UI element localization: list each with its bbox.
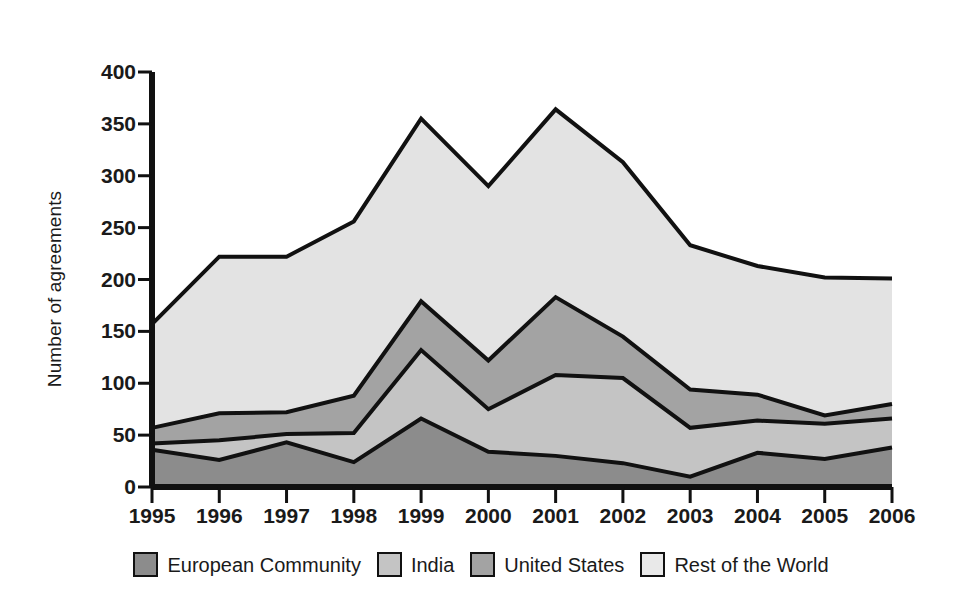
- legend-label: European Community: [167, 555, 360, 575]
- legend-swatch-icon: [133, 552, 158, 577]
- legend-label: United States: [504, 555, 624, 575]
- legend-entry[interactable]: India: [377, 552, 454, 577]
- stacked-area-chart-figure: Number of agreements 0501001502002503003…: [0, 0, 962, 601]
- legend-entry[interactable]: United States: [470, 552, 624, 577]
- legend-swatch-icon: [470, 552, 495, 577]
- legend-label: Rest of the World: [674, 555, 828, 575]
- chart-legend: European CommunityIndiaUnited StatesRest…: [0, 552, 962, 577]
- legend-label: India: [411, 555, 454, 575]
- legend-entry[interactable]: Rest of the World: [640, 552, 828, 577]
- legend-swatch-icon: [640, 552, 665, 577]
- legend-swatch-icon: [377, 552, 402, 577]
- legend-entry[interactable]: European Community: [133, 552, 360, 577]
- x-axis-tick-labels: 1995199619971998199920002001200220032004…: [0, 0, 962, 601]
- x-tick-label: 2006: [847, 505, 937, 526]
